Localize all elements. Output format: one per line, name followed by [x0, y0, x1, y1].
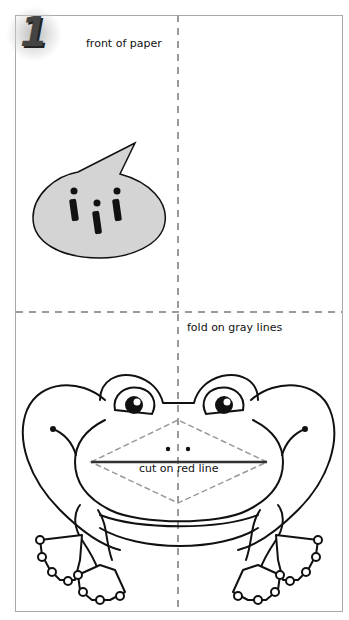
frog-nostril-left: [166, 447, 170, 451]
fold-lines: [16, 15, 342, 612]
step-number: 1: [6, 10, 62, 54]
cut-instruction-label: cut on red line: [139, 462, 218, 475]
frog-right-cheek-line: [282, 429, 305, 455]
frog-nostril-right: [186, 447, 190, 451]
speech-bubble-icon: [33, 143, 165, 258]
fold-instruction-label: fold on gray lines: [187, 321, 282, 334]
frog-right-front-foot: [233, 565, 284, 604]
step-number-badge: 1: [6, 6, 62, 62]
frog-left-eye: [115, 387, 155, 414]
craft-template-artwork: [0, 0, 349, 620]
frog-left-front-foot: [74, 565, 125, 604]
frog-left-cheek-line: [53, 429, 76, 455]
frog-right-eye: [204, 387, 244, 414]
front-of-paper-label: front of paper: [86, 37, 162, 50]
